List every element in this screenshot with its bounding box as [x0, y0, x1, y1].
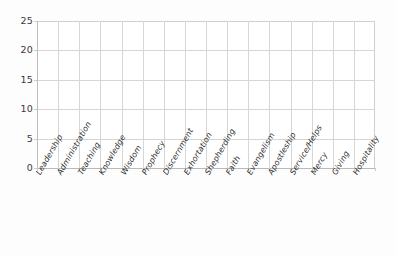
- y-tick-label: 5: [3, 134, 33, 144]
- y-tick-label: 15: [3, 75, 33, 85]
- y-tick-label: 10: [3, 104, 33, 114]
- x-axis: Leadership Administration Teaching Knowl…: [0, 168, 396, 256]
- y-tick-label: 20: [3, 45, 33, 55]
- x-tick-mark: [375, 168, 376, 171]
- bar-chart: 25 20 15 10 5 0: [0, 0, 396, 256]
- y-tick-label: 25: [3, 16, 33, 26]
